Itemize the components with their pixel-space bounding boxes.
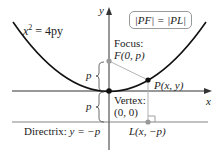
- upper-p-brace: [96, 62, 104, 91]
- upper-p-label: p: [86, 70, 92, 81]
- directrix-equation: y = −p: [70, 125, 101, 137]
- focus-point: [106, 58, 111, 63]
- y-axis-label: y: [99, 5, 104, 16]
- point-p-label: P(x, y): [154, 80, 183, 91]
- point-p: [145, 77, 150, 82]
- y-axis-arrow-icon: [106, 7, 112, 15]
- pf-segment: [109, 61, 148, 80]
- lower-p-brace: [96, 92, 104, 122]
- focus-coords: F(0, p): [114, 50, 145, 61]
- x-axis-arrow-icon: [204, 88, 212, 94]
- directrix-text: Directrix:: [24, 125, 70, 137]
- x-axis-label: x: [206, 96, 211, 107]
- parabola-equation: x2 = 4py: [23, 24, 63, 37]
- directrix-label: Directrix: y = −p: [24, 126, 100, 137]
- point-l-label: L(x, −p): [129, 126, 166, 137]
- focus-title: Focus:: [114, 38, 143, 49]
- vertex-point: [106, 88, 112, 94]
- lower-p-label: p: [86, 101, 92, 112]
- vertex-coords: (0, 0): [114, 107, 138, 118]
- distance-condition-box: |PF| = |PL|: [129, 11, 192, 29]
- equation-rest: = 4py: [32, 24, 63, 38]
- vertex-title: Vertex:: [114, 95, 146, 106]
- point-l: [145, 119, 150, 124]
